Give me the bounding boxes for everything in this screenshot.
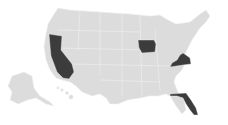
alaska xyxy=(8,72,54,106)
us-map xyxy=(0,0,228,125)
hawaii xyxy=(57,87,73,99)
state-iowa xyxy=(138,40,156,53)
